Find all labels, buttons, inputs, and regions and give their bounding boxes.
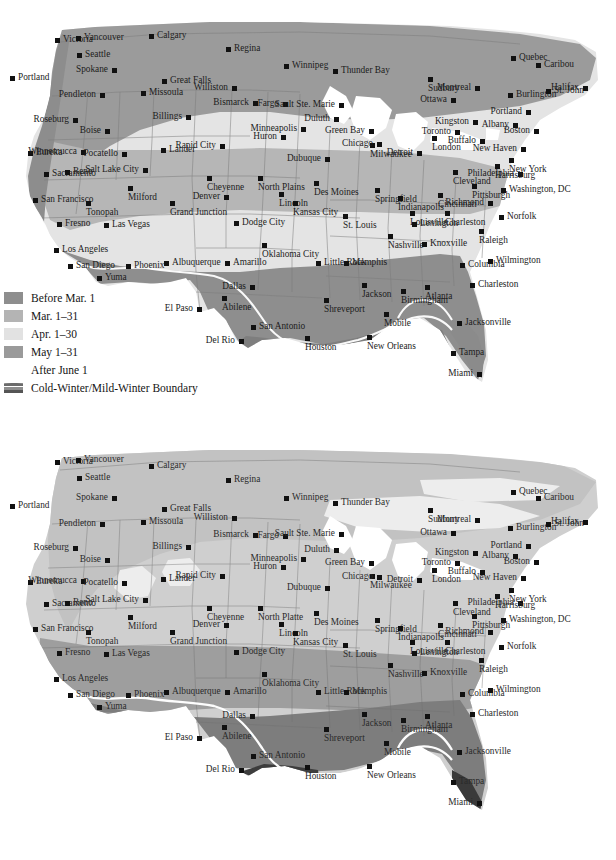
city-dot-icon [451, 351, 456, 356]
city-dot-icon [377, 575, 382, 580]
city-dot-icon [112, 68, 117, 73]
city-dot-icon [453, 601, 458, 606]
city-label: Knoxville [430, 239, 467, 248]
city-dot-icon [126, 264, 131, 269]
city-dot-icon [314, 181, 319, 186]
city-dot-icon [55, 38, 60, 43]
city-label: New Orleans [367, 771, 416, 780]
city-dot-icon [224, 623, 229, 628]
city-dot-icon [239, 339, 244, 344]
city-dot-icon [451, 98, 456, 103]
city-label: Shreveport [324, 734, 365, 743]
city-dot-icon [384, 741, 389, 746]
legend-item-after-june-1: After June 1 [4, 361, 198, 379]
city-dot-icon [499, 215, 504, 220]
city-dot-icon [105, 129, 110, 134]
city-label: Dallas [222, 282, 246, 291]
city-label: Chicago [342, 139, 373, 148]
city-dot-icon [477, 372, 482, 377]
legend-color-swatch [4, 292, 23, 304]
city-label: Calgary [157, 31, 186, 40]
city-dot-icon [412, 222, 417, 227]
city-dot-icon [73, 546, 78, 551]
city-dot-icon [314, 611, 319, 616]
city-label: Des Moines [314, 618, 359, 627]
city-dot-icon [470, 712, 475, 717]
city-dot-icon [412, 651, 417, 656]
city-dot-icon [377, 142, 382, 147]
city-dot-icon [511, 56, 516, 61]
legend-label: May 1–31 [31, 346, 78, 358]
city-dot-icon [104, 652, 109, 657]
city-label: St. Louis [343, 221, 377, 230]
city-label: Nashville [388, 241, 424, 250]
city-dot-icon [220, 574, 225, 579]
city-dot-icon [186, 115, 191, 120]
city-dot-icon [197, 736, 202, 741]
legend-color-swatch [4, 346, 23, 358]
city-dot-icon [488, 201, 493, 206]
city-dot-icon [122, 581, 127, 586]
city-dot-icon [77, 476, 82, 481]
city-dot-icon [508, 526, 513, 531]
city-label: Dallas [222, 711, 246, 720]
map-panel-last-spring-frost: LAST SPRING FROST [0, 0, 616, 420]
city-dot-icon [33, 198, 38, 203]
city-dot-icon [422, 671, 427, 676]
city-dot-icon [226, 478, 231, 483]
city-dot-icon [76, 36, 81, 41]
legend-item-cold-winter-mild-winter-boundary: Cold-Winter/Mild-Winter Boundary [4, 379, 198, 397]
city-dot-icon [170, 201, 175, 206]
city-label: Norfolk [507, 642, 536, 651]
legend-label: Mar. 1–31 [31, 310, 78, 322]
city-label: Detroit [387, 575, 413, 584]
city-dot-icon [104, 223, 109, 228]
city-label: Tonopah [86, 208, 118, 217]
city-dot-icon [388, 234, 393, 239]
city-label: Missoula [149, 517, 183, 526]
city-label: Seattle [85, 473, 110, 482]
city-dot-icon [65, 601, 70, 606]
city-dot-icon [76, 458, 81, 463]
city-dot-icon [324, 298, 329, 303]
city-label: Buffalo [448, 567, 476, 576]
city-label: Huron [253, 562, 277, 571]
city-label: Roseburg [34, 115, 69, 124]
city-label: Lexington [420, 648, 458, 657]
city-dot-icon [225, 690, 230, 695]
city-dot-icon [149, 464, 154, 469]
legend-color-swatch [4, 364, 23, 376]
city-dot-icon [239, 768, 244, 773]
city-dot-icon [425, 285, 430, 290]
city-label: Boston [504, 557, 530, 566]
city-label: Salt Lake City [85, 165, 139, 174]
city-label: Toronto [422, 558, 451, 567]
city-label: Shreveport [324, 305, 365, 314]
city-dot-icon [284, 496, 289, 501]
city-label: Buffalo [448, 136, 476, 145]
city-label: Kingston [435, 548, 469, 557]
city-dot-icon [526, 110, 531, 115]
city-dot-icon [344, 690, 349, 695]
city-label: Boise [80, 555, 101, 564]
city-label: New Haven [473, 573, 517, 582]
city-dot-icon [225, 261, 230, 266]
city-dot-icon [501, 188, 506, 193]
city-dot-icon [428, 508, 433, 513]
city-dot-icon [445, 211, 450, 216]
city-label: Kingston [435, 117, 469, 126]
city-label: San Antonio [259, 322, 305, 331]
city-dot-icon [197, 307, 202, 312]
city-label: Bismarck [213, 98, 249, 107]
city-dot-icon [479, 658, 484, 663]
city-label: Oklahoma City [262, 250, 319, 259]
city-label: Winnemucca [28, 147, 77, 156]
city-dot-icon [432, 568, 437, 573]
city-label: El Paso [165, 733, 193, 742]
city-dot-icon [224, 195, 229, 200]
city-label: Rapid City [175, 571, 216, 580]
city-dot-icon [432, 136, 437, 141]
city-dot-icon [162, 507, 167, 512]
city-dot-icon [473, 551, 478, 556]
city-dot-icon [128, 186, 133, 191]
